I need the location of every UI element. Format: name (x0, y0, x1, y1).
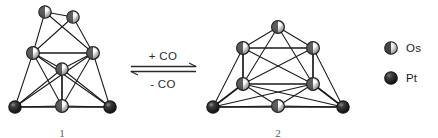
sphere-highlight (73, 13, 77, 16)
atom-os (307, 78, 320, 91)
atom-os (237, 78, 250, 91)
sphere-highlight (62, 65, 66, 68)
sphere-highlight (11, 104, 15, 107)
sphere-highlight (243, 80, 247, 83)
sphere-highlight (339, 104, 343, 107)
reverse-reaction-label: - CO (150, 78, 175, 90)
os-sphere-shade (272, 100, 278, 113)
reaction-scheme: + CO - CO Os Pt 1 2 (0, 0, 438, 138)
atom-pt (337, 101, 349, 113)
atom-os (56, 63, 68, 75)
sphere-highlight (313, 80, 317, 83)
cluster-left-bonds (15, 12, 110, 107)
atom-pt (207, 101, 219, 113)
atom-os (237, 42, 250, 55)
atom-os (307, 42, 320, 55)
sphere-highlight (278, 23, 282, 26)
atom-os (272, 100, 285, 113)
bond (15, 69, 62, 107)
bond (15, 53, 33, 107)
sphere-highlight (45, 8, 49, 11)
equilibrium-arrow: + CO - CO (131, 50, 196, 90)
atom-os (56, 100, 69, 113)
pt-sphere-icon (385, 72, 398, 85)
sphere-highlight (313, 44, 317, 47)
atom-os (87, 47, 100, 60)
os-sphere-shade (56, 100, 62, 113)
bond (213, 48, 243, 107)
sphere-highlight (33, 49, 37, 52)
forward-reaction-label: + CO (149, 50, 177, 62)
cluster-right-bonds (213, 27, 343, 107)
legend-label-pt: Pt (406, 72, 418, 84)
bond (93, 53, 110, 107)
sphere-highlight (278, 102, 282, 105)
atom-os (27, 47, 40, 60)
pt-sphere-icon (337, 101, 349, 113)
atom-pt (104, 101, 116, 113)
os-sphere-shade (307, 42, 313, 55)
legend-label-os: Os (406, 42, 421, 54)
figure-captions: 1 2 (59, 127, 281, 138)
pt-sphere-icon (207, 101, 219, 113)
os-sphere-shade (237, 42, 243, 55)
bond (33, 53, 110, 107)
os-sphere-shade (272, 21, 278, 34)
bond (62, 69, 110, 107)
cluster-left (9, 6, 116, 113)
sphere-highlight (106, 104, 110, 107)
cluster-right-atoms (207, 21, 349, 114)
atom-os (272, 21, 285, 34)
caption-cluster-left: 1 (59, 127, 65, 138)
os-sphere-icon-shade (385, 42, 391, 55)
pt-sphere-icon (9, 101, 21, 113)
legend: Os Pt (385, 42, 421, 85)
bond (15, 53, 93, 107)
os-sphere-shade (27, 47, 33, 60)
atom-os (67, 11, 79, 23)
sphere-highlight (243, 44, 247, 47)
bond (33, 17, 73, 53)
sphere-highlight (93, 49, 97, 52)
pt-sphere-icon (104, 101, 116, 113)
atom-os (39, 6, 51, 18)
bond (313, 48, 343, 107)
os-sphere-shade (39, 6, 45, 18)
os-sphere-shade (307, 78, 313, 91)
sphere-highlight (62, 102, 66, 105)
atom-pt (9, 101, 21, 113)
sphere-highlight (209, 104, 213, 107)
caption-cluster-right: 2 (275, 127, 281, 138)
cluster-right (207, 21, 349, 114)
